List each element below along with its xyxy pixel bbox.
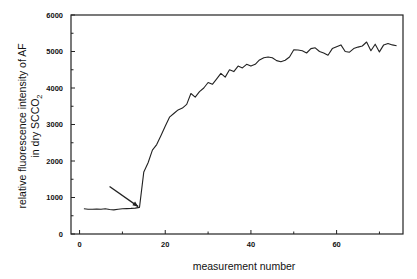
y-tick-label: 2000 xyxy=(46,157,63,166)
y-tick-label: 4000 xyxy=(46,84,63,93)
annotation-arrow xyxy=(110,187,139,207)
plot-border xyxy=(71,15,403,234)
arrow-head-icon xyxy=(132,202,138,207)
data-series-line xyxy=(84,42,397,210)
x-tick-label: 60 xyxy=(332,240,340,249)
y-tick-label: 3000 xyxy=(46,120,63,129)
x-tick-label: 20 xyxy=(161,240,169,249)
y-axis-title: relative fluorescence intensity of AF in… xyxy=(16,43,44,208)
y-tick-label: 6000 xyxy=(46,11,63,20)
y-tick-label: 5000 xyxy=(46,47,63,56)
x-axis-title: measurement number xyxy=(193,260,296,272)
x-tick-label: 0 xyxy=(77,240,81,249)
y-axis-title-line1: relative fluorescence intensity of AF xyxy=(16,43,28,208)
x-tick-label: 40 xyxy=(247,240,255,249)
y-axis-title-line2: in dry SCCO2 xyxy=(29,94,44,157)
line-chart: 0100020003000400050006000 0204060 measur… xyxy=(0,0,417,279)
x-axis-ticks: 0204060 xyxy=(77,230,379,249)
y-tick-label: 1000 xyxy=(46,193,63,202)
plot-frame xyxy=(71,15,403,234)
y-tick-label: 0 xyxy=(59,230,63,239)
